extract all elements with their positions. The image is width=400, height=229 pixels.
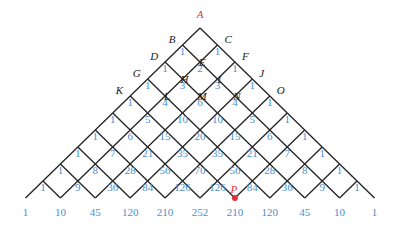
point-label-h: H — [180, 73, 190, 85]
pascal-value: 1 — [319, 147, 325, 159]
pascal-value: 1 — [250, 79, 256, 91]
pascal-value: 1 — [23, 206, 29, 218]
pascal-value: 8 — [302, 164, 308, 176]
point-label-c: C — [224, 33, 232, 45]
pascal-value: 45 — [90, 206, 102, 218]
pascal-value: 1 — [285, 113, 291, 125]
pascal-value: 1 — [215, 45, 221, 57]
point-label-b: B — [169, 33, 176, 45]
pascal-value: 6 — [267, 130, 273, 142]
pascal-value: 1 — [267, 96, 273, 108]
pascal-value: 120 — [122, 206, 139, 218]
pascal-value: 7 — [110, 147, 116, 159]
point-label-m: M — [196, 90, 207, 102]
point-label-d: D — [149, 50, 158, 62]
lattice-edge — [200, 28, 217, 45]
pascal-value: 1 — [93, 130, 99, 142]
pascal-lattice-diagram: 1112113311464115101051161520156117213535… — [0, 0, 400, 229]
pascal-value: 8 — [93, 164, 99, 176]
pascal-value: 5 — [145, 113, 151, 125]
pascal-value: 1 — [127, 96, 133, 108]
pascal-value: 1 — [372, 206, 378, 218]
pascal-value: 70 — [195, 164, 207, 176]
point-label-l: L — [163, 90, 170, 102]
pascal-value: 15 — [160, 130, 172, 142]
pascal-value: 15 — [229, 130, 241, 142]
pascal-value: 28 — [264, 164, 276, 176]
pascal-value: 56 — [160, 164, 172, 176]
pascal-value: 20 — [195, 130, 207, 142]
pascal-value: 1 — [40, 181, 46, 193]
pascal-value: 1 — [302, 130, 308, 142]
point-label-j: J — [259, 67, 265, 79]
pascal-value: 126 — [174, 181, 191, 193]
pascal-value: 10 — [55, 206, 67, 218]
pascal-value: 1 — [110, 113, 116, 125]
pascal-value: 35 — [177, 147, 189, 159]
pascal-value: 126 — [209, 181, 226, 193]
pascal-value: 9 — [75, 181, 81, 193]
pascal-value: 210 — [157, 206, 174, 218]
point-label-n: N — [232, 90, 241, 102]
pascal-value: 84 — [142, 181, 154, 193]
pascal-value: 1 — [337, 164, 343, 176]
point-label-a: A — [196, 8, 204, 20]
pascal-value: 56 — [229, 164, 241, 176]
point-label-k: K — [115, 84, 124, 96]
pascal-value: 36 — [282, 181, 294, 193]
pascal-value: 10 — [334, 206, 346, 218]
pascal-value: 28 — [125, 164, 137, 176]
pascal-value: 36 — [107, 181, 119, 193]
pascal-value: 21 — [142, 147, 153, 159]
pascal-value: 5 — [250, 113, 256, 125]
lattice-svg: 1112113311464115101051161520156117213535… — [0, 0, 400, 229]
point-label-f: F — [241, 50, 249, 62]
pascal-value: 1 — [145, 79, 151, 91]
pascal-value: 9 — [319, 181, 325, 193]
pascal-value: 45 — [299, 206, 311, 218]
point-p-dot — [232, 195, 238, 201]
pascal-value: 1 — [232, 62, 238, 74]
point-label-e: E — [198, 56, 206, 68]
pascal-value: 21 — [247, 147, 258, 159]
point-label-g: G — [133, 67, 141, 79]
pascal-value: 1 — [75, 147, 81, 159]
pascal-value: 7 — [285, 147, 291, 159]
pascal-value: 35 — [212, 147, 224, 159]
pascal-value: 1 — [58, 164, 64, 176]
pascal-value: 10 — [212, 113, 224, 125]
point-label-o: O — [277, 84, 285, 96]
pascal-value: 10 — [177, 113, 189, 125]
lattice-edge — [183, 28, 200, 45]
pascal-value: 1 — [180, 45, 186, 57]
pascal-value: 1 — [354, 181, 360, 193]
pascal-value: 84 — [247, 181, 259, 193]
pascal-value: 6 — [127, 130, 133, 142]
pascal-value: 252 — [192, 206, 209, 218]
pascal-value: 210 — [227, 206, 244, 218]
point-label-p: P — [230, 183, 238, 195]
pascal-value: 1 — [162, 62, 168, 74]
pascal-value: 120 — [262, 206, 279, 218]
